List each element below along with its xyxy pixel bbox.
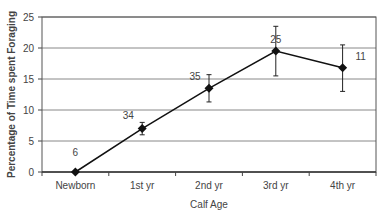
y-tick-label: 5 xyxy=(28,136,34,147)
y-tick-label: 10 xyxy=(23,105,35,116)
y-tick-label: 25 xyxy=(23,12,35,23)
data-annotation: 34 xyxy=(123,110,135,121)
y-tick-label: 20 xyxy=(23,43,35,54)
data-annotation: 35 xyxy=(189,71,201,82)
x-axis-title: Calf Age xyxy=(190,199,228,210)
x-tick-label: 1st yr xyxy=(130,180,155,191)
chart-svg: 0510152025Newborn1st yr2nd yr3rd yr4th y… xyxy=(0,0,386,217)
x-tick-label: 2nd yr xyxy=(195,180,223,191)
line-chart: 0510152025Newborn1st yr2nd yr3rd yr4th y… xyxy=(0,0,386,217)
y-tick-label: 0 xyxy=(28,167,34,178)
data-marker xyxy=(138,124,147,133)
data-annotation: 25 xyxy=(270,34,282,45)
data-annotation: 11 xyxy=(355,51,366,62)
y-tick-label: 15 xyxy=(23,74,35,85)
y-axis-title: Percentage of Time spent Foraging xyxy=(6,11,17,178)
x-tick-label: 3rd yr xyxy=(263,180,289,191)
x-tick-label: Newborn xyxy=(55,180,95,191)
data-marker xyxy=(338,63,347,72)
data-annotation: 6 xyxy=(73,147,79,158)
x-tick-label: 4th yr xyxy=(330,180,356,191)
data-marker xyxy=(205,84,214,93)
data-line xyxy=(75,51,342,172)
data-marker xyxy=(71,168,80,177)
